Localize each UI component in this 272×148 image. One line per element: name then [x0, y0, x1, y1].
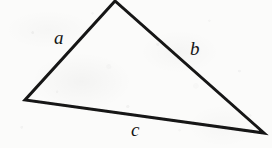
- triangle-diagram-figure: a b c: [0, 0, 272, 148]
- triangle-outline: [25, 1, 264, 133]
- side-label-c: c: [131, 120, 139, 139]
- side-label-a: a: [54, 28, 64, 47]
- side-label-b: b: [190, 39, 200, 58]
